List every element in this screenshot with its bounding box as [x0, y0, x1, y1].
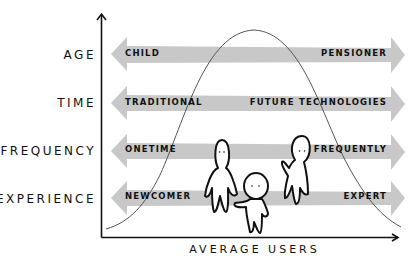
row-label-frequency: FREQUENCY: [0, 144, 96, 158]
arrow-left-label-time: TRADITIONAL: [125, 97, 203, 107]
diagram-graphics: [0, 0, 409, 266]
x-axis-label: AVERAGE USERS: [0, 243, 409, 256]
user-spectrum-diagram: AGE TIME FREQUENCY EXPERIENCE CHILD PENS…: [0, 0, 409, 266]
arrow-right-label-frequency: FREQUENTLY: [314, 144, 387, 154]
arrow-right-label-age: PENSIONER: [321, 48, 387, 58]
arrow-right-label-time: FUTURE TECHNOLOGIES: [250, 97, 387, 107]
person-figure-2: [234, 173, 268, 233]
arrow-left-label-experience: NEWCOMER: [125, 191, 191, 201]
row-label-time: TIME: [57, 96, 96, 110]
row-label-experience: EXPERIENCE: [0, 192, 96, 206]
row-label-age: AGE: [64, 48, 96, 62]
arrow-left-label-age: CHILD: [125, 48, 160, 58]
arrow-left-label-frequency: ONETIME: [125, 144, 177, 154]
arrow-right-label-experience: EXPERT: [343, 191, 387, 201]
